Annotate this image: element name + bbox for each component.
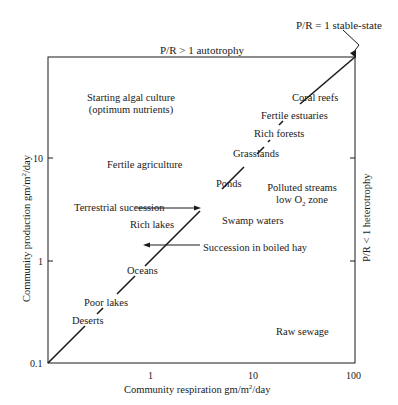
x-tick-label-100: 100 (346, 370, 361, 381)
polluted-streams-label: Polluted streams low O2 zone (258, 182, 346, 206)
algal-culture-line2: (optimum nutrients) (76, 104, 186, 116)
ponds-label: Ponds (216, 178, 242, 190)
stable-state-label: P/R = 1 stable-state (296, 19, 382, 31)
y-axis-unit: /day (21, 155, 32, 173)
grasslands-label: Grasslands (233, 148, 279, 160)
raw-sewage-label: Raw sewage (276, 326, 329, 338)
x-tick-label-1: 1 (148, 370, 153, 381)
x-axis-title-text: Community respiration gm/m (124, 384, 249, 395)
x-axis-title: Community respiration gm/m2/day (124, 384, 270, 396)
polluted-streams-line2: low O2 zone (258, 194, 346, 206)
low-o-text: low O (276, 194, 302, 205)
fertile-estuaries-label: Fertile estuaries (261, 110, 328, 122)
origin-label: 0.1 (30, 358, 43, 369)
polluted-streams-line1: Polluted streams (258, 182, 346, 194)
algal-culture-line1: Starting algal culture (76, 92, 186, 104)
terrestrial-succession-label: Terrestrial succession (74, 202, 165, 214)
y-axis-superscript: 2 (20, 173, 28, 177)
heterotrophy-label: P/R < 1 heterotrophy (361, 174, 372, 262)
poor-lakes-label: Poor lakes (84, 297, 128, 309)
rich-lakes-label: Rich lakes (130, 219, 174, 231)
fertile-agriculture-label: Fertile agriculture (107, 159, 183, 171)
autotrophy-label: P/R > 1 autotrophy (160, 44, 244, 56)
boiled-hay-label: Succession in boiled hay (203, 242, 307, 254)
pr-ratio-diagram: P/R = 1 stable-state P/R > 1 autotrophy … (0, 0, 398, 405)
rich-forests-label: Rich forests (254, 128, 304, 140)
oceans-label: Oceans (127, 265, 158, 277)
arrowhead-icon (143, 243, 150, 248)
algal-culture-label: Starting algal culture (optimum nutrient… (76, 92, 186, 116)
y-tick-label-10: 10 (33, 153, 43, 164)
y-axis-title: Community production gm/m2/day (21, 155, 32, 302)
y-axis-title-text: Community production gm/m (21, 177, 32, 302)
zone-text: zone (306, 194, 328, 205)
swamp-waters-label: Swamp waters (222, 215, 284, 227)
x-axis-unit: /day (252, 384, 270, 395)
coral-reefs-label: Coral reefs (292, 92, 338, 104)
deserts-label: Deserts (72, 315, 104, 327)
x-tick-label-10: 10 (248, 370, 258, 381)
arrowhead-icon (194, 206, 201, 211)
y-tick-label-1: 1 (38, 256, 43, 267)
stable-state-leader (343, 30, 359, 53)
